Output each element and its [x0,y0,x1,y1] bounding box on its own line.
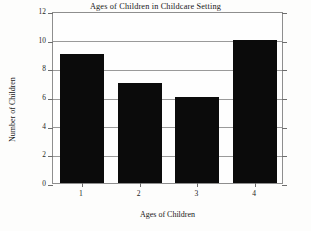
y-axis-tick-mark [48,42,53,43]
bar[interactable] [118,83,162,183]
y-axis-tick-mark-right [282,13,287,14]
x-axis-tick-mark [82,183,83,187]
y-axis-tick-mark [48,156,53,157]
y-axis-tick-mark-right [282,185,287,186]
y-axis-tick-label: 2 [26,151,46,158]
y-axis-tick-mark-right [282,42,287,43]
chart-title: Ages of Children in Childcare Setting [0,2,311,11]
x-axis-tick-label: 3 [184,190,208,198]
y-axis-tick-label: 10 [26,37,46,44]
x-axis-tick-mark [197,183,198,187]
y-axis-tick-mark [48,70,53,71]
x-axis-tick-mark [255,183,256,187]
x-axis-tick-label: 1 [69,190,93,198]
y-axis-tick-mark-right [282,70,287,71]
plot-area [52,12,283,184]
x-axis-tick-label: 4 [242,190,266,198]
y-axis-tick-mark [48,99,53,100]
x-axis-title: Ages of Children [52,210,283,219]
y-axis-tick-mark [48,13,53,14]
bar[interactable] [60,54,104,183]
y-axis-title: Number of Children [6,54,20,166]
bar[interactable] [233,40,277,183]
y-axis-tick-label: 12 [26,8,46,15]
y-axis-tick-label: 0 [26,180,46,187]
y-axis-tick-label: 4 [26,123,46,130]
bar-chart-figure: Ages of Children in Childcare Setting Nu… [0,0,311,231]
y-axis-tick-mark [48,185,53,186]
x-axis-tick-mark [140,183,141,187]
y-axis-tick-label: 8 [26,65,46,72]
y-axis-tick-mark-right [282,99,287,100]
y-axis-tick-mark-right [282,156,287,157]
x-axis-tick-label: 2 [127,190,151,198]
bar[interactable] [175,97,219,183]
y-axis-tick-mark-right [282,128,287,129]
y-axis-tick-mark [48,128,53,129]
y-axis-tick-label: 6 [26,94,46,101]
